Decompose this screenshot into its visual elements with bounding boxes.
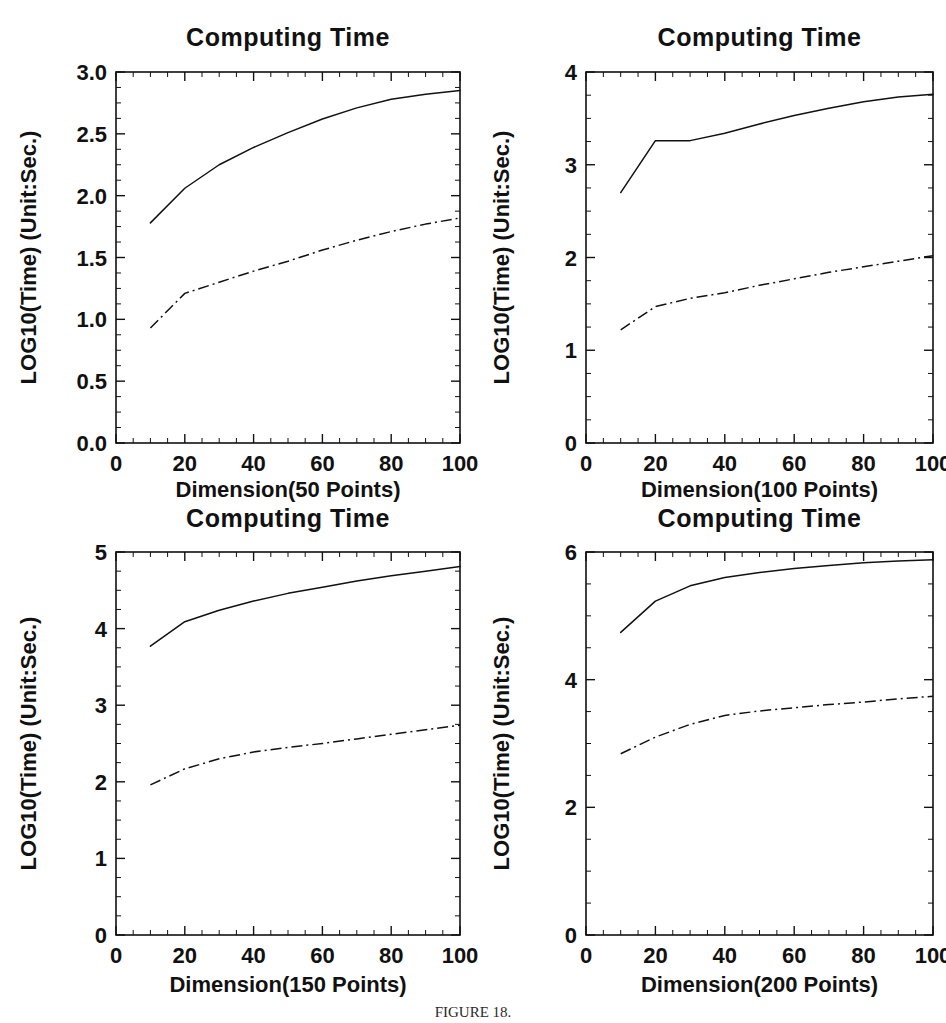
subplot-bottom-left: Computing Time020406080100012345Dimensio… [0,505,473,1023]
x-tick-label: 0 [110,943,122,968]
y-tick-label: 1.0 [76,307,107,332]
y-tick-label: 0 [95,923,107,948]
x-tick-label: 20 [173,943,197,968]
y-tick-label: 3 [565,153,577,178]
x-tick-label: 40 [241,943,265,968]
series-line-lower-dash-dot [150,725,460,785]
x-axis-label: Dimension(100 Points) [641,477,878,502]
x-tick-label: 20 [643,943,667,968]
plot-area-top-right: Computing Time02040608010001234Dimension… [473,0,946,505]
y-tick-label: 0 [565,923,577,948]
x-tick-label: 80 [379,943,403,968]
series-line-upper-solid [150,567,460,647]
axes-frame [116,552,460,935]
x-tick-label: 20 [643,451,667,476]
y-tick-label: 1.5 [76,246,107,271]
series-line-lower-dash-dot [621,256,933,330]
plot-title: Computing Time [186,23,390,51]
x-tick-label: 0 [580,943,592,968]
y-tick-label: 3.0 [76,60,107,85]
y-tick-label: 0 [565,431,577,456]
y-tick-label: 0.5 [76,369,107,394]
y-tick-label: 0.0 [76,431,107,456]
y-tick-label: 2.0 [76,184,107,209]
x-tick-label: 100 [915,943,946,968]
axes-frame [116,72,460,443]
y-tick-label: 5 [95,540,107,565]
x-tick-label: 100 [915,451,946,476]
x-tick-label: 20 [173,451,197,476]
series-line-lower-dash-dot [621,696,933,753]
x-tick-label: 60 [782,943,806,968]
y-tick-label: 4 [565,668,578,693]
x-tick-label: 60 [310,451,334,476]
y-tick-label: 2.5 [76,122,107,147]
axes-frame [586,72,933,443]
x-tick-label: 40 [713,451,737,476]
subplot-top-left: Computing Time0204060801000.00.51.01.52.… [0,0,473,505]
y-axis-label: LOG10(Time) (Unit:Sec.) [489,617,514,871]
x-tick-label: 0 [110,451,122,476]
x-tick-label: 60 [310,943,334,968]
y-tick-label: 2 [565,246,577,271]
x-tick-label: 80 [851,943,875,968]
x-tick-label: 60 [782,451,806,476]
x-tick-label: 40 [713,943,737,968]
plot-title: Computing Time [658,23,862,51]
x-axis-label: Dimension(200 Points) [641,972,878,997]
series-line-lower-dash-dot [150,218,460,328]
y-tick-label: 4 [95,617,108,642]
x-tick-label: 80 [379,451,403,476]
plot-area-bottom-right: Computing Time0204060801000246Dimension(… [473,505,946,1023]
y-axis-label: LOG10(Time) (Unit:Sec.) [16,617,41,871]
figure-caption: FIGURE 18. [0,1004,946,1021]
figure-computing-time: Computing Time0204060801000.00.51.01.52.… [0,0,946,1023]
axes-frame [586,552,933,935]
x-axis-label: Dimension(150 Points) [169,972,406,997]
subplot-top-right: Computing Time02040608010001234Dimension… [473,0,946,505]
series-line-upper-solid [621,94,933,192]
x-axis-label: Dimension(50 Points) [176,477,401,502]
y-tick-label: 6 [565,540,577,565]
y-tick-label: 3 [95,693,107,718]
subplot-bottom-right: Computing Time0204060801000246Dimension(… [473,505,946,1023]
y-tick-label: 2 [565,795,577,820]
x-tick-label: 40 [241,451,265,476]
plot-title: Computing Time [658,504,862,532]
y-tick-label: 2 [95,770,107,795]
plot-title: Computing Time [186,504,390,532]
plot-area-bottom-left: Computing Time020406080100012345Dimensio… [0,505,473,1023]
y-axis-label: LOG10(Time) (Unit:Sec.) [16,131,41,385]
series-line-upper-solid [621,560,933,633]
y-tick-label: 1 [95,846,107,871]
plot-area-top-left: Computing Time0204060801000.00.51.01.52.… [0,0,473,505]
y-tick-label: 4 [565,60,578,85]
x-tick-label: 80 [851,451,875,476]
y-tick-label: 1 [565,338,577,363]
y-axis-label: LOG10(Time) (Unit:Sec.) [489,131,514,385]
x-tick-label: 0 [580,451,592,476]
series-line-upper-solid [150,91,460,223]
